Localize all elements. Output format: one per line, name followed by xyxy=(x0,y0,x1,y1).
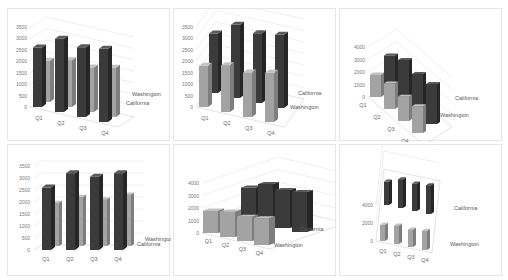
bar-washington-q2[interactable] xyxy=(384,81,398,109)
bar-washington-q2[interactable] xyxy=(394,224,402,244)
y-tick-label: 3500 xyxy=(16,24,27,30)
bar-side xyxy=(50,58,54,102)
y-tick-label: 1000 xyxy=(16,81,27,87)
chart-panel-4[interactable]: 0500100015002000250030003500Q1Q2Q3Q4Wash… xyxy=(7,144,170,276)
category-label: Q1 xyxy=(205,238,212,244)
series-axis-label: Washington xyxy=(290,104,319,110)
bar-side xyxy=(230,62,234,112)
category-label: Q4 xyxy=(267,130,274,136)
chart-panel-5[interactable]: 01000200030004000Q1Q2Q3Q4CaliforniaWashi… xyxy=(173,144,336,276)
chart-panel-2[interactable]: 0500100015002000250030003500Q1Q2Q3Q4Cali… xyxy=(173,8,336,141)
series-axis-label: Washington xyxy=(450,241,479,247)
bar-front xyxy=(99,49,108,122)
bar-california-q1[interactable] xyxy=(42,185,55,250)
y-tick-label: 2500 xyxy=(16,47,27,53)
y-tick-label: 0 xyxy=(362,94,365,100)
y-tick-label: 4000 xyxy=(188,180,199,186)
bar-california-q2[interactable] xyxy=(66,170,79,250)
bar-side xyxy=(75,170,79,250)
category-label: Q4 xyxy=(401,138,408,142)
bar-front xyxy=(42,188,51,250)
bar-california-q1[interactable] xyxy=(384,180,392,205)
category-label: Q2 xyxy=(223,120,230,126)
bar-california-q4[interactable] xyxy=(426,82,440,124)
bar-side xyxy=(116,65,120,117)
bar-front xyxy=(398,97,409,121)
bar-california-q2[interactable] xyxy=(55,36,68,112)
y-tick-label: 3500 xyxy=(19,163,30,169)
bar-front xyxy=(243,72,252,117)
bar-washington-q4[interactable] xyxy=(265,70,278,122)
bar-california-q3[interactable] xyxy=(412,182,420,211)
chart-panel-6[interactable]: 020004000Q1Q2Q3Q4CaliforniaWashington xyxy=(339,144,502,276)
series-axis-label: California xyxy=(300,226,324,232)
bar-side xyxy=(389,180,392,205)
bar-side xyxy=(86,44,90,117)
bar-washington-q4[interactable] xyxy=(254,216,275,245)
y-tick-label: 1000 xyxy=(188,218,199,224)
bar-front xyxy=(370,75,381,98)
y-tick-label: 0 xyxy=(190,104,193,110)
category-label: Q3 xyxy=(245,125,252,131)
bar-side xyxy=(409,95,412,121)
series-axis-label: California xyxy=(298,90,322,96)
bar-side xyxy=(284,32,288,108)
bar-california-q4[interactable] xyxy=(426,183,434,214)
y-tick-label: 2000 xyxy=(354,69,365,75)
category-label: Q4 xyxy=(101,130,108,136)
y-tick-label: 3000 xyxy=(182,35,193,41)
bar-side xyxy=(72,57,76,107)
bar-california-q4[interactable] xyxy=(99,46,112,122)
bar-side xyxy=(208,63,212,107)
category-label: Q3 xyxy=(79,125,86,131)
bar-washington-q1[interactable] xyxy=(370,73,384,98)
category-label: Q4 xyxy=(114,256,121,262)
bar-washington-q3[interactable] xyxy=(243,69,256,117)
bar-front xyxy=(55,39,64,112)
bar-washington-q3[interactable] xyxy=(408,227,416,247)
bar-side xyxy=(123,170,127,250)
chart-panel-3[interactable]: 01000200030004000Q1Q2Q3Q4CaliforniaWashi… xyxy=(339,8,502,141)
y-tick-label: 500 xyxy=(19,93,28,99)
bar-side xyxy=(399,224,402,244)
bar-california-q3[interactable] xyxy=(77,44,90,117)
chart-panel-1[interactable]: 0500100015002000250030003500Q1Q2Q3Q4Wash… xyxy=(7,8,170,141)
bar-front xyxy=(33,48,42,107)
category-label: Q4 xyxy=(421,257,428,263)
bar-front xyxy=(412,184,417,211)
bar-california-q4[interactable] xyxy=(114,170,127,250)
series-axis-label: Washington xyxy=(274,242,303,248)
gridline xyxy=(34,233,42,238)
bar-front xyxy=(237,217,252,241)
chart-4-svg: 0500100015002000250030003500Q1Q2Q3Q4Wash… xyxy=(8,145,171,277)
bar-front xyxy=(275,190,290,228)
chart-1-svg: 0500100015002000250030003500Q1Q2Q3Q4Wash… xyxy=(8,9,171,142)
bar-front xyxy=(426,185,431,214)
chart-3-svg: 01000200030004000Q1Q2Q3Q4CaliforniaWashi… xyxy=(340,9,503,142)
bar-washington-q1[interactable] xyxy=(199,63,212,107)
bar-california-q1[interactable] xyxy=(33,45,46,107)
y-tick-label: 2000 xyxy=(182,58,193,64)
category-label: Q2 xyxy=(373,114,380,120)
bar-side xyxy=(59,201,62,246)
bar-washington-q3[interactable] xyxy=(398,95,412,121)
series-axis-label: California xyxy=(454,205,478,211)
bar-washington-q4[interactable] xyxy=(422,229,430,250)
bar-side xyxy=(99,174,103,250)
category-label: Q1 xyxy=(201,115,208,121)
y-tick-label: 1000 xyxy=(182,81,193,87)
gridline xyxy=(34,245,42,250)
category-label: Q1 xyxy=(359,102,366,108)
y-tick-label: 2000 xyxy=(16,58,27,64)
bar-washington-q4[interactable] xyxy=(412,104,426,133)
y-tick-label: 1000 xyxy=(19,223,30,229)
category-label: Q3 xyxy=(239,246,246,252)
bar-california-q2[interactable] xyxy=(398,58,412,100)
bar-california-q2[interactable] xyxy=(398,177,406,208)
bar-washington-q1[interactable] xyxy=(380,223,388,241)
bar-california-q3[interactable] xyxy=(90,174,103,250)
bar-side xyxy=(269,216,275,245)
gridline xyxy=(34,185,42,190)
bar-washington-q2[interactable] xyxy=(221,62,234,112)
bar-side xyxy=(107,197,110,246)
